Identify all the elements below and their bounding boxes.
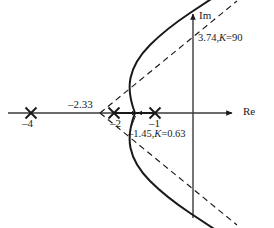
locus-upper-branch	[130, 0, 243, 113]
pole-label-minus-4: –4	[22, 118, 33, 129]
crossing-gain-value: =90	[226, 32, 242, 43]
root-locus-figure: Im Re –4 –2 –1 –2.33 –1.45,K=0.63 3.74,K…	[0, 0, 274, 228]
breakaway-annotation: –1.45,K=0.63	[128, 129, 186, 140]
crossing-value: 3.74,	[198, 32, 219, 43]
crossing-gain-symbol: K	[219, 32, 226, 43]
pole-label-minus-2: –2	[110, 118, 121, 129]
breakaway-gain-value: =0.63	[161, 128, 185, 139]
imaginary-axis-label: Im	[199, 10, 211, 21]
imaginary-crossing-annotation: 3.74,K=90	[198, 33, 242, 44]
real-axis-label: Re	[243, 106, 255, 117]
breakaway-value: –1.45,	[128, 128, 154, 139]
asymptote-upper-dashed	[100, 1, 237, 113]
centroid-label: –2.33	[68, 99, 93, 110]
